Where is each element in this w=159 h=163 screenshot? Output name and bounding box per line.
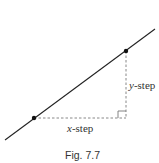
x-step-text: -step — [72, 122, 93, 134]
figure-caption: Fig. 7.7 — [65, 150, 100, 161]
x-step-label: x-step — [67, 123, 93, 134]
point-2 — [124, 49, 128, 53]
y-step-text: -step — [134, 79, 155, 91]
right-angle-marker — [118, 111, 126, 118]
point-1 — [32, 116, 36, 120]
y-step-label: y-step — [129, 80, 155, 91]
